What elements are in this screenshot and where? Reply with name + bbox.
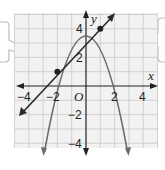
x-tick-4: 4 [139,90,146,104]
intersection-point-1 [54,69,60,75]
y-tick-minus-4: −4 [68,137,82,151]
intersection-point-2 [97,26,103,32]
y-tick-minus-2: −2 [68,108,82,122]
origin-label: O [74,89,84,104]
parabola-right-arrow-icon [125,147,131,156]
parabola-left-arrow-icon [41,147,47,156]
x-axis-label: x [147,68,154,83]
y-tick-2: 2 [76,51,83,65]
x-tick-minus-2: −2 [46,90,60,104]
y-axis-label: y [89,11,97,26]
y-tick-4: 4 [76,22,83,36]
y-axis-down-arrow-icon [83,148,89,156]
x-tick-minus-4: −4 [17,90,31,104]
x-tick-2: 2 [111,90,118,104]
graph: x y O −4 −2 2 4 4 2 −2 −4 [0,0,165,170]
